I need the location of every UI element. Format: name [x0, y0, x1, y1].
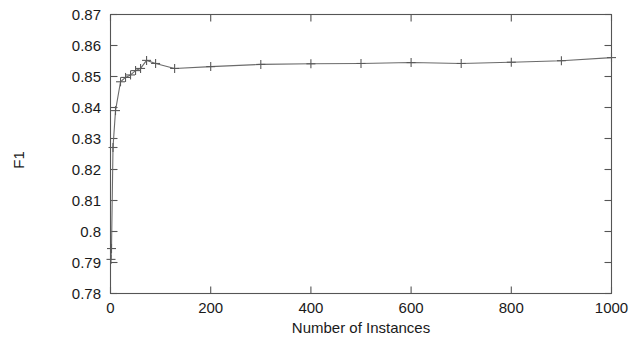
x-tick-label: 600 — [399, 299, 424, 316]
y-tick-label: 0.84 — [72, 99, 101, 116]
x-tick-label: 0 — [106, 299, 114, 316]
y-tick-label: 0.85 — [72, 68, 101, 85]
y-tick-label: 0.79 — [72, 254, 101, 271]
data-point-marker — [206, 62, 215, 71]
y-tick-label: 0.83 — [72, 130, 101, 147]
data-point-marker — [457, 59, 466, 68]
y-tick-label: 0.8 — [80, 223, 101, 240]
data-point-marker — [407, 58, 416, 67]
y-tick-label: 0.78 — [72, 285, 101, 302]
data-point-marker — [557, 56, 566, 65]
x-axis-title: Number of Instances — [292, 319, 430, 336]
data-point-marker — [357, 59, 366, 68]
data-point-marker — [507, 58, 516, 67]
data-point-marker — [109, 143, 118, 152]
x-tick-label: 400 — [298, 299, 323, 316]
series-f1 — [107, 53, 616, 264]
y-tick-label: 0.81 — [72, 192, 101, 209]
y-tick-label: 0.86 — [72, 37, 101, 54]
data-point-marker — [142, 56, 151, 65]
y-tick-label: 0.82 — [72, 161, 101, 178]
data-point-marker — [170, 64, 179, 73]
data-point-marker — [256, 60, 265, 69]
chart-figure: F1 Number of Instances 0.780.790.80.810.… — [0, 0, 644, 337]
x-tick-label: 200 — [198, 299, 223, 316]
data-point-marker — [607, 53, 616, 62]
data-point-marker — [136, 64, 145, 73]
y-tick-label: 0.87 — [72, 6, 101, 23]
x-tick-label: 800 — [499, 299, 524, 316]
data-point-marker — [306, 59, 315, 68]
x-tick-label: 1000 — [595, 299, 628, 316]
y-axis-title: F1 — [10, 151, 27, 169]
data-point-marker — [107, 244, 116, 253]
axis-tickmarks — [111, 15, 612, 294]
x-axis-tick-labels: 02004006008001000 — [106, 299, 628, 316]
y-axis-tick-labels: 0.780.790.80.810.820.830.840.850.860.87 — [72, 6, 101, 302]
f1-vs-instances-line-chart: F1 Number of Instances 0.780.790.80.810.… — [0, 0, 644, 337]
plot-frame — [111, 15, 612, 294]
data-point-marker — [151, 59, 160, 68]
